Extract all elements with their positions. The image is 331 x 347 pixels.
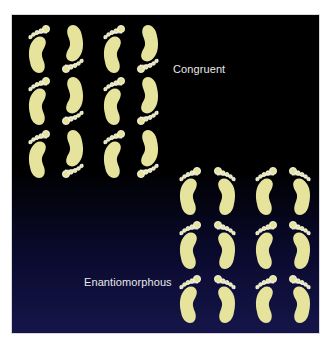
- footprint-left-up-icon: [26, 129, 50, 179]
- footprint-left-down-icon: [137, 24, 161, 74]
- footprint-right-up-icon: [289, 220, 313, 270]
- footprint-left-up-icon: [253, 274, 277, 324]
- footprint-right-up-icon: [289, 166, 313, 216]
- footprint-left-up-icon: [177, 166, 201, 216]
- footprint-left-up-icon: [26, 76, 50, 126]
- footprint-right-up-icon: [289, 274, 313, 324]
- footprint-left-up-icon: [177, 274, 201, 324]
- footprint-left-up-icon: [101, 129, 125, 179]
- footprint-left-down-icon: [137, 129, 161, 179]
- enantiomorphous-label: Enantiomorphous: [84, 276, 172, 288]
- footprint-right-up-icon: [214, 274, 238, 324]
- footprint-left-down-icon: [62, 129, 86, 179]
- footprint-left-up-icon: [253, 166, 277, 216]
- footprint-left-up-icon: [101, 76, 125, 126]
- footprint-left-up-icon: [253, 220, 277, 270]
- footprint-left-up-icon: [101, 24, 125, 74]
- footprint-right-up-icon: [214, 166, 238, 216]
- footprint-left-down-icon: [62, 76, 86, 126]
- footprint-left-up-icon: [177, 220, 201, 270]
- congruent-label: Congruent: [173, 63, 225, 75]
- footprint-left-down-icon: [137, 76, 161, 126]
- footprint-left-down-icon: [62, 24, 86, 74]
- footprint-left-up-icon: [26, 24, 50, 74]
- footprint-right-up-icon: [214, 220, 238, 270]
